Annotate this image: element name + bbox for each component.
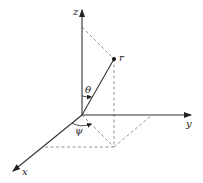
y-axis-label: y	[185, 118, 192, 129]
psi-label: ψ	[75, 125, 83, 136]
dashed-projection-to-y	[114, 115, 152, 147]
point-r	[112, 57, 116, 61]
theta-label: θ	[85, 84, 91, 95]
theta-arc	[82, 96, 91, 97]
dashed-z-to-r	[82, 27, 114, 59]
spherical-coordinates-diagram: z y x r θ ψ	[0, 0, 203, 183]
x-axis	[13, 115, 82, 171]
z-axis-label: z	[72, 6, 79, 17]
point-r-label: r	[119, 52, 125, 63]
dashed-origin-to-projection	[82, 115, 114, 147]
x-axis-label: x	[22, 166, 28, 177]
